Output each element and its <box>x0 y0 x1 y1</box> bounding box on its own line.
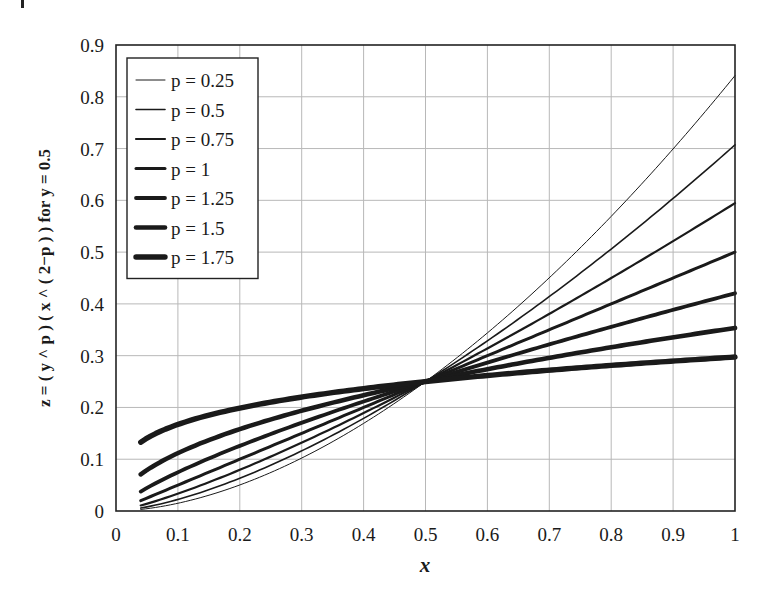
y-tick-label: 0.3 <box>80 346 104 367</box>
x-tick-label: 0.8 <box>599 524 623 545</box>
legend-label: p = 0.25 <box>171 70 234 91</box>
x-tick-label: 0.9 <box>661 524 685 545</box>
x-tick-label: 0.6 <box>476 524 500 545</box>
y-tick-label: 0.9 <box>80 35 104 56</box>
line-chart: 00.10.20.30.40.50.60.70.80.9 00.10.20.30… <box>0 0 775 601</box>
y-tick-label: 0.5 <box>80 242 104 263</box>
legend-label: p = 0.75 <box>171 129 234 150</box>
legend-label: p = 0.5 <box>171 100 224 121</box>
x-tick-label: 0.3 <box>290 524 314 545</box>
x-tick-label: 0.7 <box>537 524 561 545</box>
y-tick-label: 0.4 <box>80 294 104 315</box>
y-tick-label: 0 <box>95 501 105 522</box>
legend: p = 0.25p = 0.5p = 0.75p = 1p = 1.25p = … <box>127 58 258 279</box>
legend-label: p = 1 <box>171 159 210 180</box>
x-tick-label: 0 <box>111 524 121 545</box>
y-axis-ticks: 00.10.20.30.40.50.60.70.80.9 <box>80 35 104 522</box>
x-tick-label: 0.1 <box>166 524 190 545</box>
y-axis-label: z = ( y ^ p ) ( x ^ ( 2−p ) ) for y = 0.… <box>35 149 54 407</box>
legend-label: p = 1.5 <box>171 218 224 239</box>
x-axis-ticks: 00.10.20.30.40.50.60.70.80.91 <box>111 524 740 545</box>
series-line <box>141 357 735 442</box>
series-line <box>141 328 735 474</box>
y-tick-label: 0.7 <box>80 139 104 160</box>
x-tick-label: 0.5 <box>414 524 438 545</box>
x-tick-label: 0.4 <box>352 524 376 545</box>
legend-label: p = 1.75 <box>171 247 234 268</box>
x-axis-label: x <box>419 553 431 577</box>
y-tick-label: 0.8 <box>80 87 104 108</box>
x-tick-label: 1 <box>730 524 740 545</box>
legend-label: p = 1.25 <box>171 188 234 209</box>
y-tick-label: 0.6 <box>80 190 104 211</box>
y-tick-label: 0.2 <box>80 397 104 418</box>
y-tick-label: 0.1 <box>80 449 104 470</box>
x-tick-label: 0.2 <box>228 524 252 545</box>
